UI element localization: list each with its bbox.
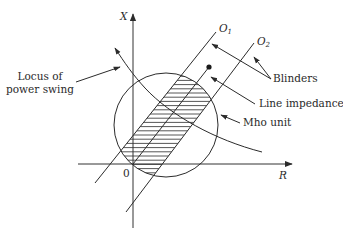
locus-pointer-arrow bbox=[76, 67, 120, 82]
locus-label-line2: power swing bbox=[6, 83, 74, 95]
blinders-pointer-o2 bbox=[254, 57, 271, 79]
locus-label-line1: Locus of bbox=[18, 70, 64, 82]
blinder-o2 bbox=[126, 43, 254, 212]
blinders-pointer-o1 bbox=[212, 44, 271, 79]
line-impedance-label: Line impedance bbox=[259, 97, 343, 109]
line-impedance-point bbox=[206, 64, 211, 69]
power-swing-locus bbox=[115, 48, 262, 152]
r-axis-label: R bbox=[278, 169, 287, 181]
blinder-o2-label: O2 bbox=[257, 35, 271, 49]
x-axis-label: X bbox=[119, 10, 128, 22]
line-impedance-line bbox=[133, 67, 209, 164]
blinders-label: Blinders bbox=[273, 72, 318, 84]
trip-region-hatch bbox=[80, 72, 260, 177]
blinder-o1-label: O1 bbox=[219, 22, 232, 36]
mho-unit-pointer bbox=[221, 115, 240, 123]
origin-label: 0 bbox=[123, 167, 130, 179]
mho-unit-label: Mho unit bbox=[243, 116, 292, 128]
impedance-diagram: X R 0 O1 O2 Locus of power swing Blinder… bbox=[0, 0, 343, 242]
